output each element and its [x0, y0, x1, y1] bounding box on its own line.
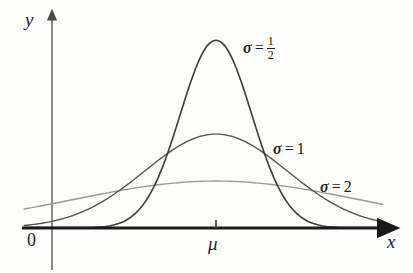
curve-sigma-half — [24, 40, 382, 227]
curve-label-sigma-two: σ=2 — [320, 178, 352, 196]
x-axis-label: x — [387, 232, 395, 251]
y-axis-label: y — [25, 10, 33, 29]
fraction-one-half: 12 — [267, 35, 275, 61]
sigma-value: 1 — [297, 140, 305, 157]
mu-tick-label: μ — [208, 234, 218, 253]
curve-label-sigma-one: σ=1 — [273, 140, 305, 158]
curve-label-sigma-half: σ=12 — [243, 36, 275, 62]
sigma-symbol: σ — [320, 178, 329, 195]
plot-canvas — [0, 0, 413, 273]
sigma-symbol: σ — [273, 140, 282, 157]
sigma-symbol: σ — [243, 39, 252, 56]
equals-symbol: = — [255, 39, 264, 56]
equals-symbol: = — [332, 178, 341, 195]
origin-label: 0 — [27, 231, 36, 249]
sigma-value: 2 — [344, 178, 352, 195]
normal-distribution-figure: y x 0 μ σ=12 σ=1 σ=2 — [0, 0, 413, 273]
equals-symbol: = — [285, 140, 294, 157]
fraction-denominator: 2 — [267, 48, 275, 62]
fraction-numerator: 1 — [267, 35, 275, 48]
